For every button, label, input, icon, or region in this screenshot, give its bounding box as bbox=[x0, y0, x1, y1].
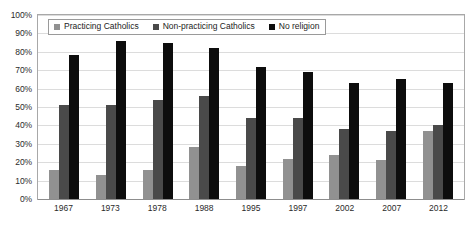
x-axis-tick-label: 2007 bbox=[368, 203, 415, 219]
x-axis-tick-label: 2002 bbox=[321, 203, 368, 219]
bar bbox=[329, 155, 339, 199]
bar bbox=[349, 83, 359, 199]
y-axis-tick-label: 100% bbox=[0, 11, 32, 19]
y-axis-tick-label: 50% bbox=[0, 103, 32, 111]
bar bbox=[163, 43, 173, 199]
bar bbox=[153, 100, 163, 199]
legend-swatch-icon bbox=[269, 24, 275, 30]
bar bbox=[339, 129, 349, 199]
y-axis-tick-label: 40% bbox=[0, 121, 32, 129]
bar-group bbox=[321, 15, 368, 199]
y-axis: 100%90%80%70%60%50%40%30%20%10%0% bbox=[0, 14, 34, 200]
x-axis-tick-label: 1973 bbox=[87, 203, 134, 219]
bar bbox=[96, 175, 106, 199]
bar bbox=[189, 147, 199, 199]
bar bbox=[106, 105, 116, 199]
bar-group bbox=[414, 15, 461, 199]
chart-legend: Practicing CatholicsNon-practicing Catho… bbox=[48, 19, 326, 35]
bar-chart: 100%90%80%70%60%50%40%30%20%10%0% Practi… bbox=[0, 0, 473, 243]
legend-swatch-icon bbox=[153, 24, 159, 30]
y-axis-tick-label: 20% bbox=[0, 158, 32, 166]
bar bbox=[49, 170, 59, 199]
bar bbox=[423, 131, 433, 199]
legend-swatch-icon bbox=[54, 24, 60, 30]
bar bbox=[116, 41, 126, 199]
legend-item[interactable]: Non-practicing Catholics bbox=[153, 22, 255, 31]
bar bbox=[246, 118, 256, 199]
x-axis-tick-label: 1967 bbox=[40, 203, 87, 219]
y-axis-tick-label: 80% bbox=[0, 48, 32, 56]
bar-group bbox=[41, 15, 88, 199]
x-axis-tick-label: 1988 bbox=[181, 203, 228, 219]
bar bbox=[59, 105, 69, 199]
y-axis-tick-label: 90% bbox=[0, 29, 32, 37]
y-axis-tick-label: 0% bbox=[0, 195, 32, 203]
y-axis-tick-label: 10% bbox=[0, 177, 32, 185]
y-axis-tick-label: 70% bbox=[0, 66, 32, 74]
bar-group bbox=[228, 15, 275, 199]
bar bbox=[293, 118, 303, 199]
legend-item[interactable]: Practicing Catholics bbox=[54, 22, 139, 31]
y-axis-tick-label: 30% bbox=[0, 140, 32, 148]
plot-area bbox=[37, 14, 465, 200]
legend-label: Non-practicing Catholics bbox=[163, 22, 255, 31]
x-axis: 196719731978198819951997200220072012 bbox=[37, 203, 465, 219]
bar bbox=[386, 131, 396, 199]
bar bbox=[396, 79, 406, 199]
x-axis-tick-label: 1995 bbox=[228, 203, 275, 219]
bar bbox=[69, 55, 79, 199]
bar bbox=[303, 72, 313, 199]
x-axis-tick-label: 1997 bbox=[274, 203, 321, 219]
legend-item[interactable]: No religion bbox=[269, 22, 320, 31]
bar bbox=[433, 125, 443, 199]
bar bbox=[199, 96, 209, 199]
bar bbox=[236, 166, 246, 199]
bar-group bbox=[88, 15, 135, 199]
bar bbox=[143, 170, 153, 199]
y-axis-tick-label: 60% bbox=[0, 85, 32, 93]
bar bbox=[376, 160, 386, 199]
legend-label: No religion bbox=[279, 22, 320, 31]
gridline bbox=[38, 199, 464, 200]
bar bbox=[256, 67, 266, 199]
bars-layer bbox=[38, 15, 464, 199]
bar bbox=[443, 83, 453, 199]
bar-group bbox=[274, 15, 321, 199]
x-axis-tick-label: 1978 bbox=[134, 203, 181, 219]
bar bbox=[283, 159, 293, 199]
bar-group bbox=[368, 15, 415, 199]
legend-label: Practicing Catholics bbox=[64, 22, 139, 31]
bar-group bbox=[181, 15, 228, 199]
bar bbox=[209, 48, 219, 199]
x-axis-tick-label: 2012 bbox=[415, 203, 462, 219]
bar-group bbox=[134, 15, 181, 199]
